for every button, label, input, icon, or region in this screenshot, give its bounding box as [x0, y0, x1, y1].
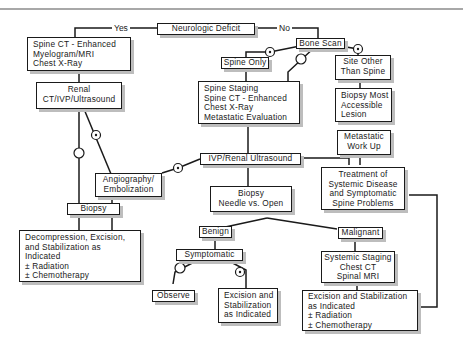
node-excision-benign: Excision and Stabilization as Indicated	[218, 288, 278, 323]
node-renal-ct: Renal CT/IVP/Ultrasound	[36, 82, 122, 109]
node-observe: Observe	[152, 290, 195, 302]
node-malignant: Malignant	[338, 227, 383, 239]
node-excision-malignant: Excision and Stabilization as Indicated …	[302, 290, 418, 331]
node-symptomatic: Symptomatic	[176, 249, 243, 261]
node-text: Metastatic Evaluation	[204, 113, 299, 123]
negative-marker-icon	[74, 148, 84, 158]
node-site-other: Site Other Than Spine	[335, 55, 391, 80]
node-ivp-renal-ultrasound: IVP/Renal Ultrasound	[200, 153, 301, 165]
node-text: ± Chemotherapy	[308, 321, 417, 331]
node-benign: Benign	[199, 226, 232, 238]
node-biopsy-accessible: Biopsy Most Accessible Lesion	[335, 88, 392, 122]
node-systemic-staging: Systemic Staging Chest CT Spinal MRI	[321, 251, 395, 283]
node-text: Neurologic Deficit	[158, 24, 254, 34]
node-text: Spine Only	[222, 58, 268, 68]
node-text: Spinal MRI	[322, 272, 394, 282]
node-spine-staging: Spine Staging Spine CT - Enhanced Chest …	[198, 81, 300, 124]
negative-marker-icon	[175, 263, 185, 273]
node-text: IVP/Renal Ultrasound	[201, 154, 300, 164]
node-text: Biopsy	[68, 204, 119, 214]
node-text: Embolization	[96, 185, 161, 195]
node-biopsy-needle-open: Biopsy Needle vs. Open	[210, 186, 292, 212]
node-text: as Indicated	[224, 310, 277, 320]
node-text: Benign	[200, 227, 231, 237]
node-text: Bone Scan	[297, 39, 344, 49]
negative-marker-icon	[296, 54, 306, 64]
no-label: No	[277, 23, 292, 33]
node-metastatic-workup: Metastatic Work Up	[337, 130, 391, 155]
node-treatment-systemic: Treatment of Systemic Disease and Sympto…	[321, 167, 405, 210]
node-text: Malignant	[339, 228, 382, 238]
node-text: Symptomatic	[177, 250, 242, 260]
node-text: Lesion	[341, 110, 391, 120]
node-biopsy-left: Biopsy	[67, 203, 120, 215]
node-text: ± Chemotherapy	[25, 271, 140, 281]
node-text: Needle vs. Open	[211, 199, 291, 209]
node-spine-ct-myelogram: Spine CT - Enhanced Myelogram/MRI Chest …	[27, 37, 131, 71]
node-text: Chest X-Ray	[33, 59, 130, 69]
node-bone-scan: Bone Scan	[296, 38, 345, 49]
node-text: CT/IVP/Ultrasound	[37, 95, 121, 105]
node-angiography: Angiography/ Embolization	[95, 173, 162, 197]
node-decompression: Decompression, Excision, and Stabilizati…	[19, 230, 141, 282]
node-text: Spine Problems	[322, 199, 404, 209]
node-neurologic-deficit: Neurologic Deficit	[157, 23, 255, 35]
node-spine-only: Spine Only	[221, 57, 269, 69]
yes-label: Yes	[112, 23, 130, 33]
node-text: Than Spine	[336, 67, 390, 77]
node-text: Work Up	[338, 142, 390, 152]
node-text: Observe	[153, 291, 194, 301]
